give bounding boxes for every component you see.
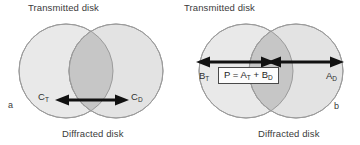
label-a-d: AD	[326, 70, 337, 81]
formula-term2-sub: D	[268, 74, 273, 81]
point-p-marker	[269, 60, 272, 63]
diffracted-disk-caption-b: Diffracted disk	[258, 128, 320, 139]
panel-letter-b: b	[334, 101, 339, 111]
figure-root: Transmitted disk Diffracted disk CT CD a	[0, 0, 360, 145]
formula-equals: =	[233, 69, 239, 80]
panel-a-diagram	[0, 0, 180, 145]
transmitted-disk-caption-a: Transmitted disk	[28, 2, 99, 13]
formula-box-p: P = AT + BD	[218, 67, 279, 84]
label-c-t-sub: T	[45, 96, 49, 103]
label-c-d-base: C	[131, 91, 138, 102]
label-c-t-base: C	[38, 91, 45, 102]
label-b-t: BT	[199, 70, 209, 81]
formula-term1-base: A	[241, 69, 247, 80]
formula-term1-sub: T	[247, 74, 251, 81]
formula-plus: +	[253, 69, 259, 80]
label-b-t-sub: T	[205, 75, 209, 82]
transmitted-disk-caption-b: Transmitted disk	[184, 2, 255, 13]
label-c-d-sub: D	[138, 96, 143, 103]
panel-a: Transmitted disk Diffracted disk CT CD a	[0, 0, 180, 145]
panel-b: Transmitted disk Diffracted disk BT AD P…	[180, 0, 360, 145]
panel-letter-a: a	[8, 100, 13, 110]
label-c-d: CD	[131, 91, 143, 102]
label-c-t: CT	[38, 91, 49, 102]
diffracted-disk-caption-a: Diffracted disk	[62, 128, 124, 139]
label-a-d-sub: D	[332, 75, 337, 82]
formula-lhs: P	[224, 69, 230, 80]
